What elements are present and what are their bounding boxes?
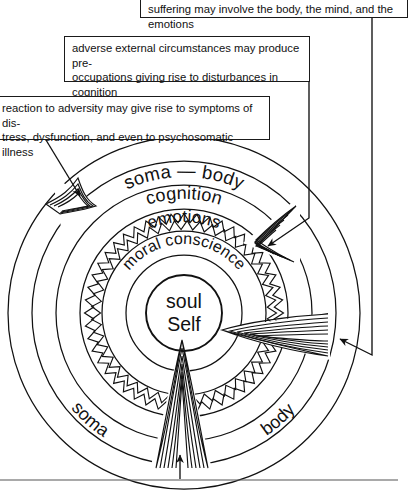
dent-upper-left (46, 178, 96, 214)
callout-suffering-line-1: suffering may involve the body, the mind… (148, 2, 400, 31)
callout-suffering: suffering may involve the body, the mind… (140, 0, 408, 18)
callout-reaction: reaction to adversity may give rise to s… (0, 96, 270, 140)
ring-label-cognition: cognition (143, 183, 225, 209)
core-label-self: Self (167, 313, 201, 335)
core-label-soul: soul (166, 290, 202, 312)
dent-upper-right (255, 206, 296, 262)
callout-adverse: adverse external circumstances may produ… (64, 36, 310, 82)
ring-label-moral-conscience: moral conscience (119, 230, 250, 273)
callout-adverse-line-1: adverse external circumstances may produ… (72, 41, 302, 70)
callout-reaction-line-1: reaction to adversity may give rise to s… (2, 101, 262, 130)
ring-label-soma-bottom: soma (68, 398, 114, 442)
callout-reaction-line-2: tress, dysfunction, and even to psychoso… (2, 130, 262, 159)
connector-suffering (340, 18, 372, 355)
callout-adverse-line-2: occupations giving rise to disturbances … (72, 70, 302, 99)
ring-label-emotions: emotions (145, 207, 224, 233)
